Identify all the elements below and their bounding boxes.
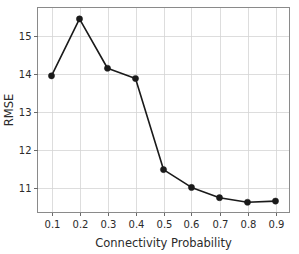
data-point-0.1 [48,73,54,79]
ytick-label-15: 15 [19,31,32,42]
chart-figure: 0.10.20.30.40.50.60.70.80.9 1112131415 C… [0,0,299,254]
data-point-0.4 [132,75,138,81]
data-point-0.9 [272,198,278,204]
xtick-label-0.9: 0.9 [269,219,285,230]
data-point-0.2 [76,16,82,22]
xtick-label-0.6: 0.6 [184,219,200,230]
xtick-label-0.1: 0.1 [45,219,61,230]
plot-area-background [38,8,290,213]
y-axis-title: RMSE [2,94,16,126]
ytick-label-14: 14 [19,69,32,80]
data-point-0.7 [216,195,222,201]
data-point-0.8 [244,199,250,205]
xtick-label-0.8: 0.8 [241,219,257,230]
xtick-label-0.7: 0.7 [213,219,229,230]
rmse-line-chart: 0.10.20.30.40.50.60.70.80.9 1112131415 C… [0,0,299,254]
data-point-0.6 [188,184,194,190]
ytick-label-13: 13 [19,107,32,118]
x-axis-title: Connectivity Probability [95,236,232,250]
xtick-label-0.5: 0.5 [157,219,173,230]
ytick-label-11: 11 [19,183,32,194]
xtick-label-0.4: 0.4 [129,219,145,230]
x-tick-labels: 0.10.20.30.40.50.60.70.80.9 [45,219,285,230]
data-point-0.5 [160,167,166,173]
ytick-label-12: 12 [19,145,32,156]
xtick-label-0.3: 0.3 [101,219,117,230]
xtick-label-0.2: 0.2 [73,219,89,230]
data-point-0.3 [104,65,110,71]
